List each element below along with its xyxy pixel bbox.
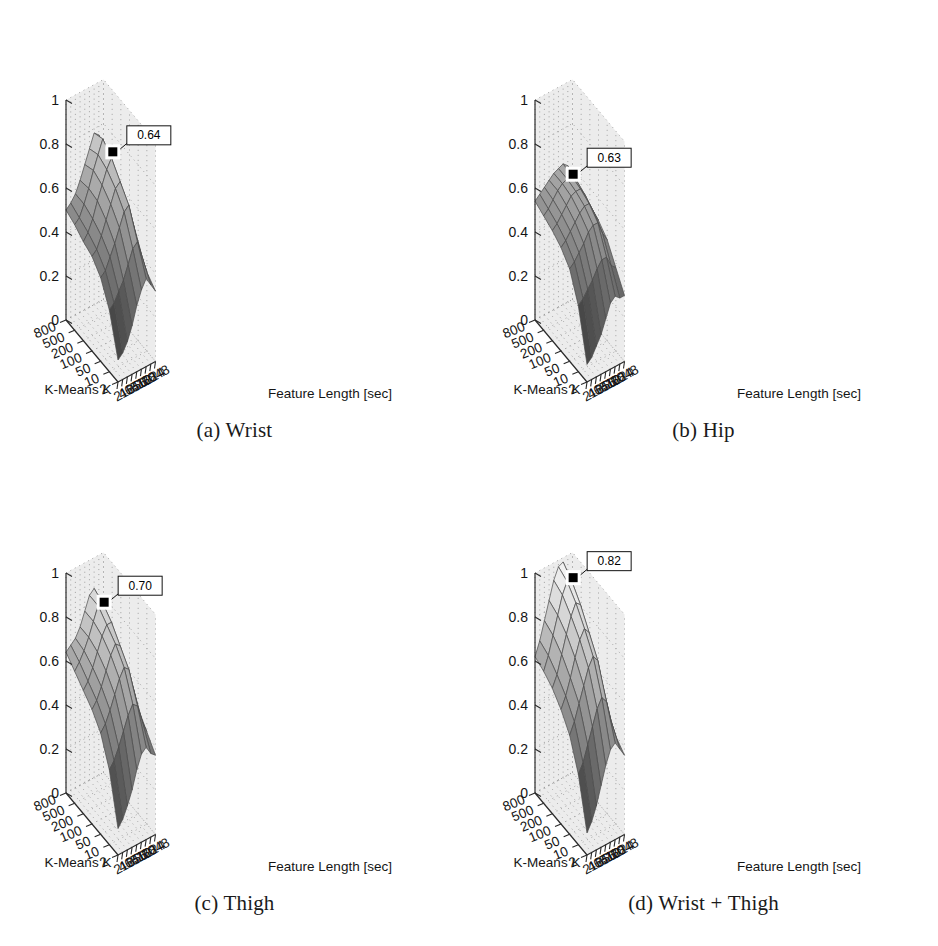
y-axis-name: Feature Length [sec] [737,859,861,874]
z-tick-label: 0.8 [40,609,60,625]
z-tick-label: 0.2 [509,268,529,284]
surface-plot-b: 00.20.40.60.8180050020010050102241664256… [469,0,938,425]
y-axis-name: Feature Length [sec] [268,859,392,874]
z-tick-label: 0.4 [40,697,60,713]
panel-c: 00.20.40.60.8180050020010050102241664256… [0,473,469,946]
z-tick-label: 0.8 [40,136,60,152]
x-axis-name: K-Means K [45,855,112,870]
figure-root: 00.20.40.60.8180050020010050102241664256… [0,0,938,946]
z-tick-label: 0.2 [40,741,60,757]
z-tick-label: 1 [520,92,528,108]
panel-caption-c: (c) Thigh [0,891,469,916]
axis-names: K-Means KFeature Length [sec] [45,855,392,874]
z-tick-label: 0.4 [40,224,60,240]
panel-caption-d: (d) Wrist + Thigh [469,891,938,916]
axis-names: K-Means KFeature Length [sec] [45,382,392,401]
axis-names: K-Means KFeature Length [sec] [514,382,861,401]
x-axis-name: K-Means K [514,855,581,870]
peak-label-text: 0.82 [597,554,621,568]
z-tick-label: 0.4 [509,224,529,240]
peak-marker [569,573,578,582]
peak-label-text: 0.63 [597,151,621,165]
x-axis-name: K-Means K [45,382,112,397]
z-tick-label: 0.4 [509,697,529,713]
surface-plot-a: 00.20.40.60.8180050020010050102241664256… [0,0,469,425]
z-tick-label: 0.2 [40,268,60,284]
z-tick-label: 1 [51,565,59,581]
peak-marker [100,598,109,607]
panel-d: 00.20.40.60.8180050020010050102241664256… [469,473,938,946]
plot-area-c: 00.20.40.60.8180050020010050102241664256… [0,473,469,898]
z-tick-label: 1 [51,92,59,108]
z-tick-label: 1 [520,565,528,581]
axis-names: K-Means KFeature Length [sec] [514,855,861,874]
z-tick-label: 0.6 [509,653,529,669]
plot-area-b: 00.20.40.60.8180050020010050102241664256… [469,0,938,425]
z-tick-label: 0.6 [509,180,529,196]
z-tick-label: 0.8 [509,136,529,152]
surface-plot-d: 00.20.40.60.8180050020010050102241664256… [469,473,938,898]
surface-plot-c: 00.20.40.60.8180050020010050102241664256… [0,473,469,898]
peak-label-text: 0.70 [128,579,152,593]
plot-area-d: 00.20.40.60.8180050020010050102241664256… [469,473,938,898]
y-axis-name: Feature Length [sec] [268,386,392,401]
z-tick-label: 0.6 [40,180,60,196]
x-axis-name: K-Means K [514,382,581,397]
z-tick-label: 0.2 [509,741,529,757]
panel-b: 00.20.40.60.8180050020010050102241664256… [469,0,938,473]
peak-marker [108,147,117,156]
plot-area-a: 00.20.40.60.8180050020010050102241664256… [0,0,469,425]
y-axis-name: Feature Length [sec] [737,386,861,401]
z-tick-label: 0.6 [40,653,60,669]
panel-caption-b: (b) Hip [469,418,938,443]
z-tick-label: 0.8 [509,609,529,625]
panel-caption-a: (a) Wrist [0,418,469,443]
peak-marker [569,170,578,179]
peak-label-text: 0.64 [137,128,161,142]
panel-a: 00.20.40.60.8180050020010050102241664256… [0,0,469,473]
